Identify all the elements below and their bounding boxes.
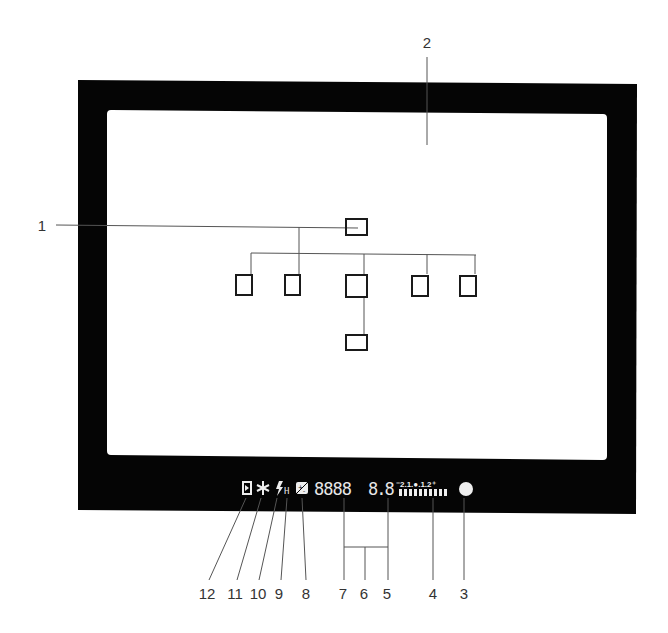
callout-label-9: 9 (275, 585, 283, 602)
callout-label-2: 2 (423, 34, 431, 51)
shutter-speed-digits: 8888 (314, 479, 352, 499)
callout-label-1: 1 (38, 217, 46, 234)
callout-label-11: 11 (227, 585, 243, 602)
callout-label-3: 3 (460, 585, 468, 602)
callout-label-6: 6 (360, 585, 368, 602)
viewfinder-screen (107, 110, 607, 460)
high-speed-sync-label: H (284, 486, 289, 496)
viewfinder-diagram: 2 1 (0, 0, 668, 633)
bottom-callout-labels: 12 11 10 9 8 7 6 5 4 3 (199, 585, 469, 602)
aperture-digits: 8.8 (368, 479, 394, 499)
exposure-scale-text: ⁻2.1.●.1.2⁺ (396, 480, 436, 489)
callout-label-5: 5 (383, 585, 391, 602)
callout-label-12: 12 (199, 585, 216, 602)
svg-text:-: - (303, 487, 305, 494)
exposure-compensation-icon: + - (296, 482, 308, 494)
callout-label-4: 4 (429, 585, 437, 602)
callout-label-7: 7 (339, 585, 347, 602)
in-focus-dot-icon (459, 482, 473, 496)
callout-label-10: 10 (250, 585, 267, 602)
callout-label-8: 8 (302, 585, 310, 602)
